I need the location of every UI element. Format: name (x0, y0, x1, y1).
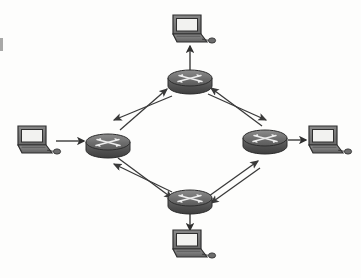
link-left-top-arrow-down (114, 96, 172, 120)
link-left-bottom-arrow-down (118, 158, 172, 198)
link-bottom-right-arrow-up (209, 161, 258, 196)
link-left-bottom (114, 158, 172, 198)
router-left[interactable] (86, 134, 130, 158)
router-right[interactable] (243, 130, 287, 154)
laptop-left[interactable] (18, 126, 61, 154)
link-left-top-arrow-up (120, 89, 167, 130)
link-top-right-arrow-down (208, 94, 266, 120)
network-diagram-svg (0, 0, 361, 278)
laptop-right[interactable] (309, 126, 352, 154)
scan-artifact-left-edge (0, 38, 3, 51)
link-top-right (208, 88, 266, 126)
link-bottom-right-arrow-down (211, 168, 260, 203)
link-left-top (114, 89, 172, 130)
router-top[interactable] (168, 70, 212, 94)
laptop-top[interactable] (173, 15, 216, 43)
link-left-bottom-arrow-up (114, 164, 172, 192)
network-diagram-canvas (0, 0, 361, 278)
router-bottom[interactable] (168, 190, 212, 214)
laptop-bottom[interactable] (173, 230, 216, 258)
link-bottom-right (209, 161, 260, 203)
